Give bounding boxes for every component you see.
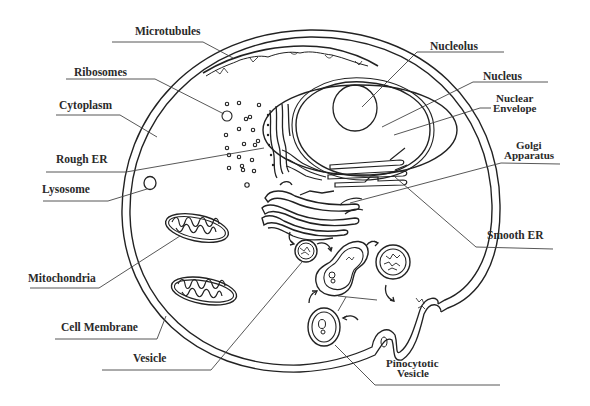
- label-vesicle: Vesicle: [133, 352, 166, 364]
- golgi-apparatus: [262, 182, 363, 240]
- label-cell-membrane: Cell Membrane: [61, 321, 138, 333]
- ribosomes: [222, 101, 261, 187]
- mitochondrion-1: [163, 209, 231, 248]
- label-smooth-er: Smooth ER: [487, 229, 544, 241]
- label-cytoplasm: Cytoplasm: [59, 99, 112, 112]
- label-mitochondria: Mitochondria: [28, 272, 96, 284]
- label-nucleus: Nucleus: [483, 70, 523, 82]
- label-nuclear-envelope-2: Envelope: [493, 102, 537, 114]
- vesicle: [295, 240, 317, 262]
- label-pinocytotic-2: Vesicle: [397, 367, 429, 379]
- microtubules: [203, 46, 378, 76]
- label-nucleolus: Nucleolus: [430, 40, 478, 52]
- lysosome: [144, 177, 156, 190]
- pinocytotic-vesicle: [308, 308, 340, 346]
- label-golgi-2: Apparatus: [504, 149, 555, 161]
- rough-er: [267, 104, 326, 180]
- smooth-er: [328, 148, 407, 187]
- nucleolus: [333, 85, 377, 131]
- mitochondrion-2: [169, 272, 239, 309]
- label-rough-er: Rough ER: [56, 153, 108, 166]
- digestive-vesicle: [376, 245, 410, 279]
- transport-arrows: [289, 232, 394, 320]
- label-microtubules: Microtubules: [135, 25, 201, 37]
- label-ribosomes: Ribosomes: [74, 66, 128, 78]
- label-lysosome: Lysosome: [42, 183, 90, 196]
- animal-cell-diagram: Microtubules Ribosomes Cytoplasm Rough E…: [0, 0, 590, 406]
- fusing-vesicle: [316, 241, 368, 295]
